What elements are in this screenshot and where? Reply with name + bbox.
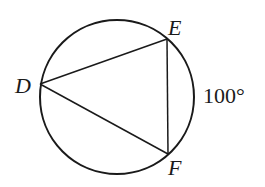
arc-measure-label: 100° xyxy=(203,83,245,108)
point-label-d: D xyxy=(14,73,31,98)
diagram-canvas: D E F 100° xyxy=(0,0,265,187)
segment-df xyxy=(40,84,168,154)
point-label-f: F xyxy=(167,155,182,180)
point-label-e: E xyxy=(167,15,182,40)
segment-ef xyxy=(167,39,168,154)
